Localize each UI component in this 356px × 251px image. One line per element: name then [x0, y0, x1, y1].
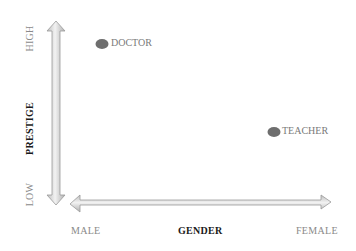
x-axis-title: GENDER: [178, 225, 223, 236]
y-axis-arrow-icon: [47, 21, 65, 205]
teacher-dot-icon: [268, 127, 281, 137]
y-axis-high-label: HIGH: [24, 24, 35, 54]
y-axis-low-label: LOW: [24, 180, 35, 210]
y-axis-title: PRESTIGE: [24, 97, 35, 161]
x-axis-right-label: FEMALE: [296, 225, 338, 236]
teacher-label: TEACHER: [282, 125, 328, 136]
doctor-label: DOCTOR: [111, 37, 152, 48]
x-axis-left-label: MALE: [71, 225, 101, 236]
prestige-gender-diagram: HIGH PRESTIGE LOW MALE GENDER FEMALE DOC…: [0, 0, 356, 251]
x-axis-arrow-icon: [70, 195, 331, 212]
doctor-dot-icon: [96, 39, 109, 49]
